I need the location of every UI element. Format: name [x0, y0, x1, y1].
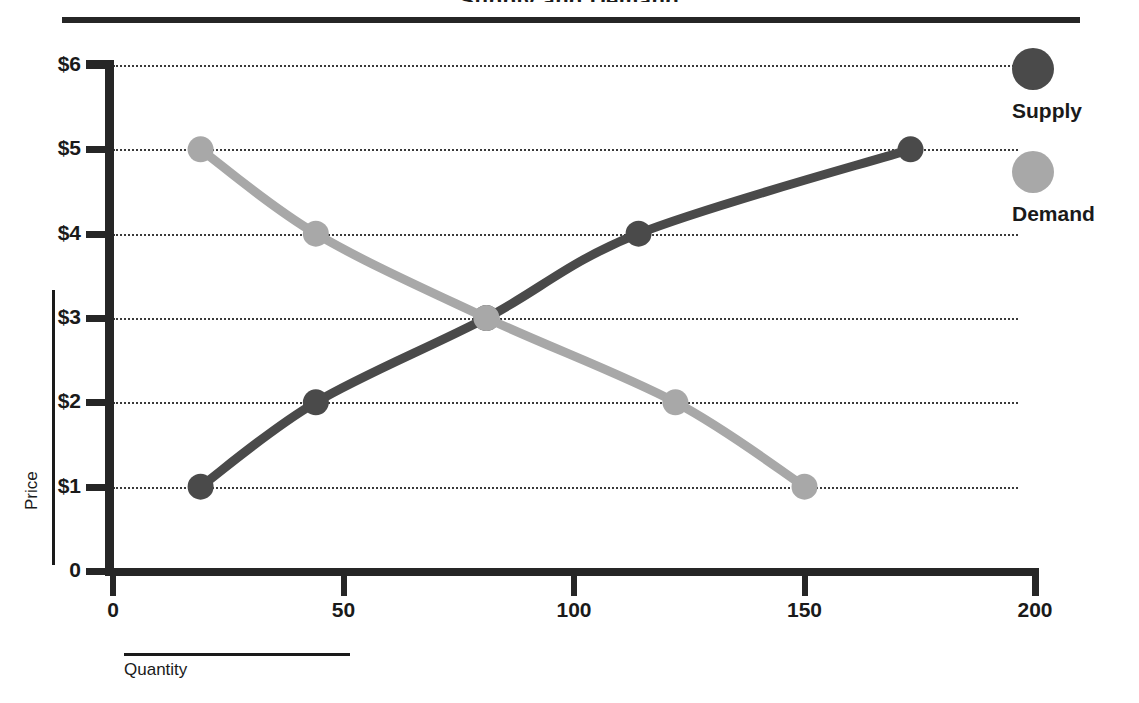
y-axis-tick-label: $2	[58, 389, 81, 413]
y-axis-tick	[86, 568, 108, 575]
gridline	[113, 65, 1018, 67]
gridline-layer	[113, 65, 1018, 571]
chart-canvas: Supply and Demand 0$1$2$3$4$5$6 05010015…	[0, 0, 1139, 703]
x-axis-tick-label: 0	[107, 598, 119, 622]
legend-item-demand[interactable]: Demand	[1012, 151, 1139, 226]
y-axis-title: Price	[22, 471, 42, 510]
y-axis-tick	[86, 399, 108, 406]
title-divider-rule	[62, 17, 1080, 23]
gridline	[113, 402, 1018, 404]
legend-item-supply[interactable]: Supply	[1012, 48, 1139, 123]
y-axis-tick-label: $4	[58, 221, 81, 245]
y-axis-tick-label: $1	[58, 474, 81, 498]
legend-swatch-icon	[1012, 151, 1054, 193]
y-axis-tick	[86, 231, 108, 238]
x-axis-title-rule	[124, 653, 350, 656]
y-axis-tick-label: 0	[69, 558, 81, 582]
y-axis-tick	[86, 315, 108, 322]
legend-swatch-icon	[1012, 48, 1054, 90]
y-axis-title-rule	[52, 290, 55, 565]
y-axis-tick-label: $5	[58, 136, 81, 160]
y-axis-tick-label: $6	[58, 52, 81, 76]
x-axis-tick	[571, 574, 577, 596]
y-axis-tick	[86, 62, 108, 69]
gridline	[113, 234, 1018, 236]
x-axis-title: Quantity	[124, 660, 187, 680]
x-axis-tick-label: 100	[556, 598, 591, 622]
y-axis-tick	[86, 146, 108, 153]
y-axis-tick	[86, 484, 108, 491]
x-axis-tick	[802, 574, 808, 596]
gridline	[113, 318, 1018, 320]
gridline	[113, 487, 1018, 489]
x-axis-tick	[110, 574, 116, 596]
chart-legend: SupplyDemand	[1012, 48, 1139, 254]
y-axis-tick-label: $3	[58, 305, 81, 329]
legend-label: Supply	[1012, 99, 1139, 123]
x-axis-end-cap	[1032, 568, 1039, 596]
gridline	[113, 149, 1018, 151]
chart-title: Supply and Demand	[0, 0, 1139, 2]
x-axis-tick-label: 150	[787, 598, 822, 622]
x-axis-tick-label: 200	[1017, 598, 1052, 622]
x-axis-tick-label: 50	[332, 598, 355, 622]
x-axis-tick	[341, 574, 347, 596]
legend-label: Demand	[1012, 202, 1139, 226]
